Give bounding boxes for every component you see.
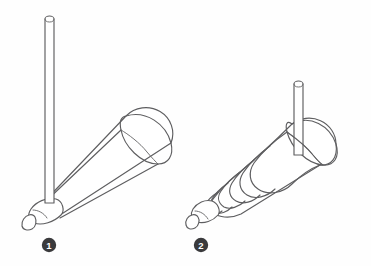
badge-numeral: 2 — [198, 240, 203, 251]
figure-1-nose-tip — [22, 199, 63, 230]
ribbed-cone-silhouette — [208, 118, 336, 217]
figure-2-nose-tip — [186, 200, 219, 229]
figure-2-label-badge: 2 — [194, 238, 208, 252]
figure-2-group: 2 — [186, 81, 337, 252]
illustration-canvas: 1 — [0, 0, 371, 266]
nose-nub — [186, 215, 199, 229]
nose-nub — [22, 215, 36, 230]
figure-2-ribbed-cone — [204, 118, 337, 217]
rod-shaft — [45, 16, 54, 203]
figure-1-label-badge: 1 — [42, 238, 56, 252]
figure-plate: 1 — [0, 0, 371, 266]
figure-1-group: 1 — [22, 16, 173, 252]
badge-numeral: 1 — [46, 240, 52, 251]
figure-1-vertical-rod — [45, 16, 54, 203]
